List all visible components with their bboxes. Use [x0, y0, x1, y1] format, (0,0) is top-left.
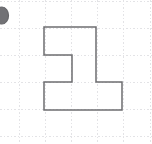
geometry-figure-canvas	[0, 0, 152, 144]
figure-container	[0, 0, 152, 144]
label-bullet-icon	[0, 7, 9, 24]
figure-background	[0, 0, 152, 144]
